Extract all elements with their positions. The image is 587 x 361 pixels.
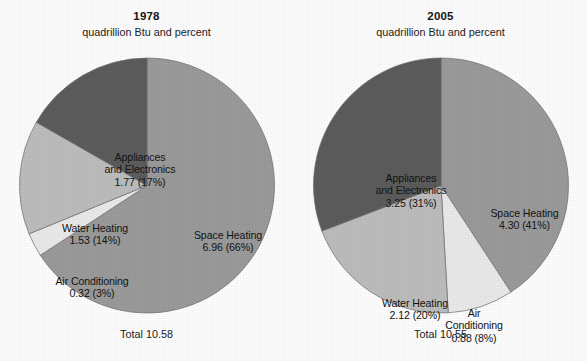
pie-chart-figure: 1978 quadrillion Btu and percent Space H… <box>0 0 587 361</box>
pie-2005: Space Heating 4.30 (41%) Appliances and … <box>312 57 569 314</box>
slice-label-line: Air <box>424 307 524 319</box>
slice-label-appliances-2005: Appliances and Electronics 3.25 (31%) <box>350 172 472 209</box>
slice-label-appliances-1978: Appliances and Electronics 1.77 (17%) <box>80 151 200 188</box>
pie-1978: Space Heating 6.96 (66%) Appliances and … <box>18 57 275 314</box>
slice-label-line: Appliances <box>350 172 472 184</box>
slice-value-line: 3.25 (31%) <box>350 197 472 209</box>
chart-total-2005: Total 10.55 <box>294 328 587 340</box>
chart-subtitle-2005: quadrillion Btu and percent <box>294 26 587 38</box>
chart-title-2005: 2005 <box>294 10 587 22</box>
slice-label-line: Space Heating <box>467 207 582 219</box>
slice-label-line: Appliances <box>80 151 200 163</box>
slice-value-line: 0.32 (3%) <box>32 287 152 299</box>
chart-panel-1978: 1978 quadrillion Btu and percent Space H… <box>0 0 293 361</box>
slice-value-line: 1.53 (14%) <box>40 234 150 246</box>
slice-label-line: Air Conditioning <box>32 275 152 287</box>
slice-label-space-heating-1978: Space Heating 6.96 (66%) <box>168 229 288 254</box>
chart-title-1978: 1978 <box>0 10 293 22</box>
slice-label-water-heating-1978: Water Heating 1.53 (14%) <box>40 222 150 247</box>
slice-value-line: 4.30 (41%) <box>467 219 582 231</box>
slice-label-line: Space Heating <box>168 229 288 241</box>
chart-panel-2005: 2005 quadrillion Btu and percent Space H… <box>294 0 587 361</box>
slice-label-line: and Electronics <box>80 163 200 175</box>
slice-label-line: and Electronics <box>350 184 472 196</box>
chart-total-1978: Total 10.58 <box>0 328 293 340</box>
slice-label-space-heating-2005: Space Heating 4.30 (41%) <box>467 207 582 232</box>
slice-label-line: Water Heating <box>40 222 150 234</box>
chart-subtitle-1978: quadrillion Btu and percent <box>0 26 293 38</box>
slice-value-line: 1.77 (17%) <box>80 176 200 188</box>
slice-value-line: 6.96 (66%) <box>168 241 288 253</box>
slice-label-air-conditioning-1978: Air Conditioning 0.32 (3%) <box>32 275 152 300</box>
